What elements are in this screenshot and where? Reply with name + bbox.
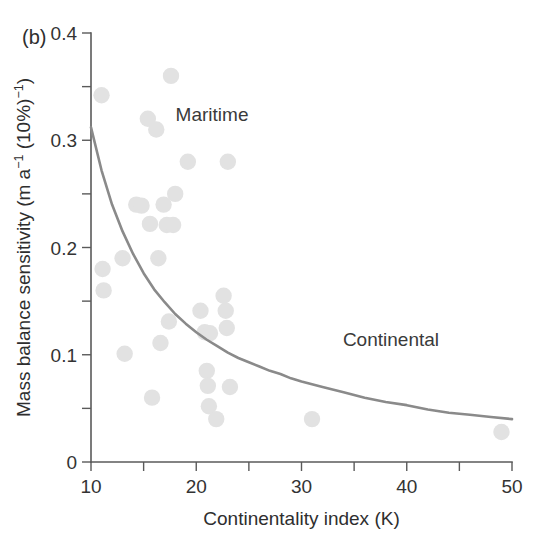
data-point — [114, 250, 130, 266]
data-point — [192, 303, 208, 319]
data-markers — [93, 68, 509, 440]
tick-marks — [82, 33, 512, 471]
data-point — [95, 282, 111, 298]
y-tick-label: 0.4 — [51, 23, 78, 44]
data-point — [150, 250, 166, 266]
data-point — [215, 288, 231, 304]
fit-curve — [91, 127, 512, 419]
y-tick-label: 0 — [66, 452, 77, 473]
y-tick-label: 0.3 — [51, 130, 77, 151]
data-point — [200, 378, 216, 394]
x-tick-label: 20 — [186, 476, 207, 497]
data-point — [144, 389, 160, 405]
data-point — [304, 411, 320, 427]
data-point — [167, 186, 183, 202]
data-point — [163, 68, 179, 84]
data-point — [148, 121, 164, 137]
y-tick-label: 0.1 — [51, 345, 77, 366]
data-point — [493, 424, 509, 440]
data-point — [208, 411, 224, 427]
data-point — [152, 335, 168, 351]
data-point — [133, 197, 149, 213]
data-point — [94, 261, 110, 277]
data-point — [93, 87, 109, 103]
region-label-maritime: Maritime — [176, 104, 249, 125]
panel-label: (b) — [22, 26, 46, 48]
data-point — [218, 303, 234, 319]
data-point — [180, 154, 196, 170]
data-point — [220, 154, 236, 170]
x-tick-label: 30 — [291, 476, 312, 497]
data-point — [199, 363, 215, 379]
x-tick-label: 50 — [501, 476, 522, 497]
x-tick-label: 40 — [396, 476, 417, 497]
text-labels: 00.10.20.30.41020304050Continentality in… — [12, 23, 523, 529]
data-point — [116, 345, 132, 361]
data-point — [165, 217, 181, 233]
scatter-plot: 00.10.20.30.41020304050Continentality in… — [0, 0, 538, 533]
data-point — [161, 313, 177, 329]
y-axis-title: Mass balance sensitivity (m a−1 (10%)−1) — [12, 78, 34, 417]
data-point — [222, 379, 238, 395]
region-label-continental: Continental — [343, 329, 439, 350]
exponential-fit-curve — [91, 127, 512, 419]
x-axis-title: Continentality index (K) — [203, 508, 399, 529]
y-tick-label: 0.2 — [51, 238, 77, 259]
figure-panel-b: 00.10.20.30.41020304050Continentality in… — [0, 0, 538, 533]
data-point — [142, 216, 158, 232]
data-point — [219, 320, 235, 336]
x-tick-label: 10 — [80, 476, 101, 497]
